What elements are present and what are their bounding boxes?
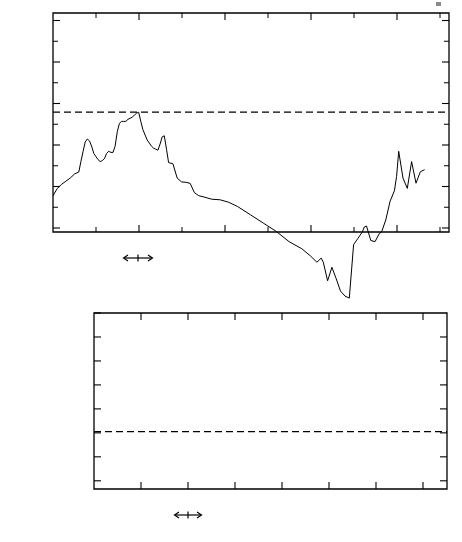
geomagnetic-moment-chart (23, 13, 449, 298)
plot-frame (53, 13, 449, 232)
era-marker (175, 512, 202, 519)
delta-c14-chart (0, 0, 447, 519)
x-axis-ticks (96, 13, 440, 232)
y-axis-ticks (53, 21, 449, 229)
scan-artifact (436, 2, 441, 6)
y-axis-ticks (94, 313, 447, 481)
x-axis-ticks (141, 313, 423, 489)
observed-moment-curve (53, 112, 425, 298)
scientific-figure (0, 0, 462, 542)
plot-frame (94, 313, 447, 489)
figure-svg (0, 0, 462, 542)
era-marker (124, 255, 153, 262)
